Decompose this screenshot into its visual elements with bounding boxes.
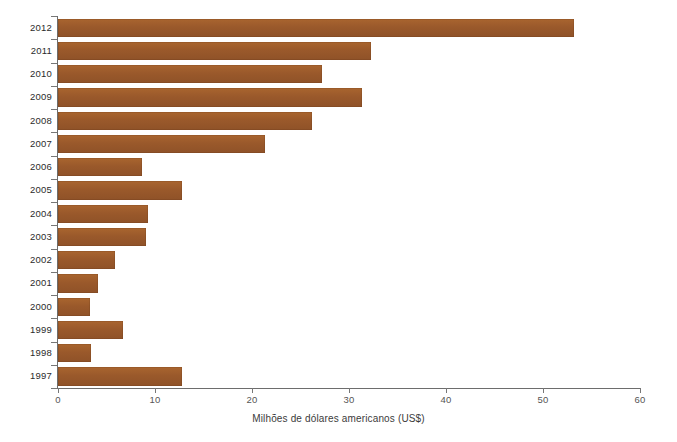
y-axis-tick <box>51 365 57 366</box>
x-axis-label-40: 40 <box>426 394 466 405</box>
bar-row <box>58 179 640 202</box>
y-axis-tick <box>51 16 57 17</box>
y-axis-tick <box>51 86 57 87</box>
bar-row <box>58 63 640 86</box>
y-axis-tick <box>51 109 57 110</box>
bar-row <box>58 202 640 225</box>
y-axis-label-2012: 2012 <box>6 23 52 33</box>
bar-2004 <box>58 205 148 223</box>
y-axis-tick <box>51 202 57 203</box>
bar-2007 <box>58 135 265 153</box>
y-axis-tick <box>51 249 57 250</box>
y-axis-label-2010: 2010 <box>6 69 52 79</box>
y-axis-label-2000: 2000 <box>6 302 52 312</box>
y-axis-label-1999: 1999 <box>6 325 52 335</box>
x-axis-tick <box>252 388 253 393</box>
y-axis-label-2003: 2003 <box>6 232 52 242</box>
y-axis-label-2005: 2005 <box>6 185 52 195</box>
x-axis-tick <box>543 388 544 393</box>
bar-2010 <box>58 65 322 83</box>
bar-row <box>58 225 640 248</box>
y-axis-tick <box>51 39 57 40</box>
y-axis-label-1998: 1998 <box>6 348 52 358</box>
bar-row <box>58 16 640 39</box>
bar-row <box>58 156 640 179</box>
x-axis-label-20: 20 <box>232 394 272 405</box>
bar-row <box>58 39 640 62</box>
y-axis-label-2007: 2007 <box>6 139 52 149</box>
bar-2012 <box>58 19 574 37</box>
bar-row <box>58 342 640 365</box>
y-axis-label-2004: 2004 <box>6 209 52 219</box>
x-axis-tick <box>446 388 447 393</box>
y-axis-tick <box>51 388 57 389</box>
bar-2008 <box>58 112 312 130</box>
y-axis-tick <box>51 318 57 319</box>
bar-row <box>58 249 640 272</box>
bar-1999 <box>58 321 123 339</box>
x-axis-tick <box>155 388 156 393</box>
bar-2003 <box>58 228 146 246</box>
x-axis-tick <box>640 388 641 393</box>
y-axis-tick <box>51 132 57 133</box>
bar-row <box>58 132 640 155</box>
x-axis-tick <box>349 388 350 393</box>
y-axis-tick <box>51 342 57 343</box>
x-axis-label-60: 60 <box>620 394 660 405</box>
y-axis-label-2001: 2001 <box>6 278 52 288</box>
bar-row <box>58 318 640 341</box>
y-axis-label-2009: 2009 <box>6 92 52 102</box>
y-axis-tick <box>51 272 57 273</box>
bar-2002 <box>58 251 115 269</box>
y-axis-label-2002: 2002 <box>6 255 52 265</box>
bar-2000 <box>58 298 90 316</box>
bar-row <box>58 109 640 132</box>
x-axis-title: Milhões de dólares americanos (US$) <box>0 413 677 424</box>
x-axis-label-50: 50 <box>523 394 563 405</box>
bar-chart-figure: 2012201120102009200820072006200520042003… <box>0 0 677 442</box>
x-axis-label-0: 0 <box>38 394 78 405</box>
y-axis-tick <box>51 225 57 226</box>
bar-2005 <box>58 181 182 199</box>
bar-2006 <box>58 158 142 176</box>
bar-2011 <box>58 42 371 60</box>
y-axis-label-2011: 2011 <box>6 46 52 56</box>
y-axis-tick <box>51 156 57 157</box>
y-axis-label-2008: 2008 <box>6 116 52 126</box>
bar-2001 <box>58 274 98 292</box>
x-axis-label-30: 30 <box>329 394 369 405</box>
bar-2009 <box>58 88 362 106</box>
y-axis-tick <box>51 63 57 64</box>
bar-1997 <box>58 367 182 385</box>
plot-area <box>58 16 640 388</box>
bar-row <box>58 365 640 388</box>
x-axis-label-10: 10 <box>135 394 175 405</box>
bar-1998 <box>58 344 91 362</box>
y-axis-tick <box>51 295 57 296</box>
y-axis-tick <box>51 179 57 180</box>
bar-row <box>58 272 640 295</box>
x-axis-tick <box>58 388 59 393</box>
bar-row <box>58 86 640 109</box>
y-axis-label-1997: 1997 <box>6 371 52 381</box>
bar-row <box>58 295 640 318</box>
y-axis-label-2006: 2006 <box>6 162 52 172</box>
